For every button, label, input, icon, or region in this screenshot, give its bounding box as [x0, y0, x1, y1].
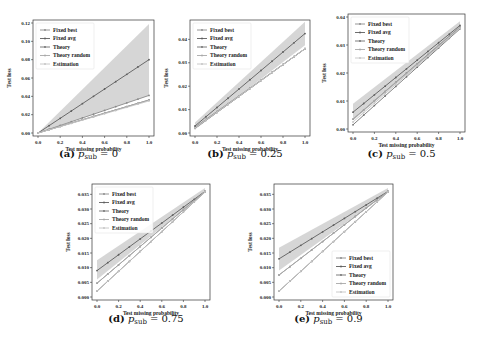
point-estimation — [448, 37, 450, 39]
y-tick-label: 0.025 — [78, 221, 90, 226]
point-theory — [363, 114, 365, 116]
point-estimation — [139, 251, 141, 253]
point-estimation — [354, 221, 356, 223]
legend-label: Theory random — [210, 52, 248, 58]
y-tick-label: 0.06 — [21, 76, 30, 81]
point-fixed-best — [104, 110, 106, 112]
point-fixed-avg — [282, 51, 284, 53]
legend: Fixed bestFixed avgTheoryTheory randomEs… — [332, 251, 390, 297]
point-theory-random — [96, 282, 98, 284]
legend-label: Fixed best — [368, 21, 392, 27]
point-fixed-avg — [395, 77, 397, 79]
legend: Fixed bestFixed avgTheoryTheory randomEs… — [193, 23, 251, 69]
x-tick-label: 0.8 — [280, 140, 287, 145]
y-tick-label: 0.10 — [21, 39, 30, 44]
point-theory — [384, 95, 386, 97]
point-estimation — [96, 290, 98, 292]
legend: Fixed bestFixed avgTheoryTheory randomEs… — [351, 17, 409, 63]
point-fixed-avg — [126, 73, 128, 75]
x-tick-label: 0.6 — [258, 140, 265, 145]
y-tick-label: 0.020 — [260, 236, 272, 241]
caption-label: (d) — [108, 313, 124, 324]
x-tick-label: 0.0 — [94, 304, 101, 309]
point-estimation — [37, 132, 39, 134]
y-tick-label: 0.015 — [260, 251, 272, 256]
point-estimation — [300, 270, 302, 272]
legend-label: Fixed avg — [210, 35, 233, 41]
point-theory-random — [161, 227, 163, 229]
y-axis-label: Test loss — [247, 232, 253, 252]
legend-marker — [201, 38, 203, 40]
legend-marker — [340, 283, 342, 285]
point-estimation — [193, 201, 195, 203]
point-estimation — [137, 103, 139, 105]
point-estimation — [271, 72, 273, 74]
caption-value: = 0.75 — [150, 313, 184, 324]
x-tick-label: 0.2 — [298, 304, 305, 309]
legend-marker — [44, 55, 46, 57]
x-tick-label: 0.2 — [214, 140, 221, 145]
point-estimation — [194, 127, 196, 129]
caption-label: (c) — [367, 148, 383, 159]
legend-marker — [44, 46, 46, 48]
point-estimation — [249, 87, 251, 89]
point-estimation — [438, 46, 440, 48]
point-fixed-avg — [82, 103, 84, 105]
point-fixed-best — [115, 106, 117, 108]
legend-marker — [201, 46, 203, 48]
y-tick-label: 0.02 — [336, 71, 345, 76]
x-tick-label: 0.8 — [180, 304, 187, 309]
point-theory-random — [311, 249, 313, 251]
point-theory-random — [118, 264, 120, 266]
y-tick-label: 0.04 — [178, 37, 187, 42]
point-estimation — [48, 129, 50, 131]
point-estimation — [260, 79, 262, 81]
x-tick-label: 0.6 — [101, 140, 108, 145]
legend-marker — [340, 266, 342, 268]
y-tick-label: 0.010 — [260, 265, 272, 270]
point-fixed-best — [93, 113, 95, 115]
legend: Fixed bestFixed avgTheoryTheory randomEs… — [95, 187, 153, 233]
point-estimation — [150, 241, 152, 243]
point-estimation — [238, 95, 240, 97]
subplot-a: 0.00.20.40.60.81.00.000.020.040.060.080.… — [6, 20, 154, 161]
point-fixed-avg — [249, 79, 251, 81]
point-fixed-best — [137, 98, 139, 100]
legend: Fixed bestFixed avgTheoryTheory randomEs… — [36, 23, 94, 69]
point-fixed-avg — [322, 231, 324, 233]
point-theory-random — [363, 109, 365, 111]
point-fixed-avg — [311, 238, 313, 240]
caption-subscript: sub — [320, 318, 333, 326]
y-tick-label: 0.030 — [78, 207, 90, 212]
y-axis-label: Test loss — [65, 232, 71, 252]
point-fixed-avg — [363, 103, 365, 105]
legend-marker — [359, 49, 361, 51]
point-estimation — [384, 93, 386, 95]
point-theory-random — [150, 236, 152, 238]
point-estimation — [70, 122, 72, 124]
subplot-c: 0.00.20.40.60.81.00.000.010.020.030.04Te… — [321, 14, 465, 161]
y-tick-label: 0.010 — [78, 265, 90, 270]
y-tick-label: 0.08 — [21, 57, 30, 62]
point-fixed-avg — [137, 66, 139, 68]
point-estimation — [172, 221, 174, 223]
caption-label: (b) — [207, 148, 223, 159]
point-fixed-avg — [365, 204, 367, 206]
point-estimation — [126, 106, 128, 108]
point-theory-random — [395, 82, 397, 84]
y-tick-label: 0.02 — [21, 112, 30, 117]
legend-label: Theory — [112, 208, 129, 214]
point-theory-random — [322, 241, 324, 243]
point-fixed-avg — [216, 107, 218, 109]
x-tick-label: 0.6 — [414, 136, 421, 141]
legend-label: Theory — [53, 44, 70, 50]
y-tick-label: 0.030 — [260, 207, 272, 212]
point-fixed-avg — [333, 224, 335, 226]
point-theory — [352, 124, 354, 126]
x-tick-label: 0.8 — [435, 136, 442, 141]
point-estimation — [118, 270, 120, 272]
point-fixed-avg — [352, 111, 354, 113]
caption-label: (e) — [294, 313, 310, 324]
point-fixed-avg — [48, 125, 50, 127]
x-tick-label: 0.8 — [124, 140, 131, 145]
